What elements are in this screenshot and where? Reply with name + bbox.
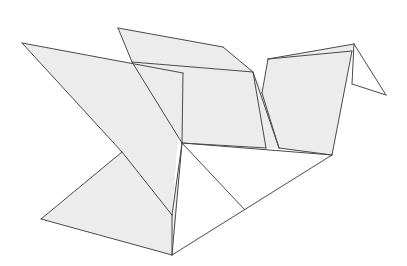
origami-figure: Origami paper crane line drawing Flat sh… bbox=[0, 0, 407, 266]
